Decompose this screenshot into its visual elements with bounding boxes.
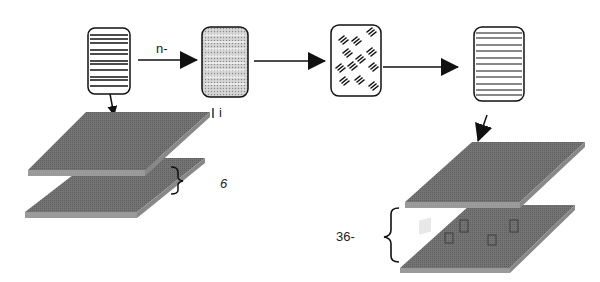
- block-2-dotted: [202, 27, 248, 97]
- block-3-diagonal-dashes: [331, 25, 381, 96]
- left-gap-label: 6: [220, 176, 227, 191]
- arrow-block4-down: [478, 115, 487, 141]
- left-plate-stack: [25, 112, 210, 218]
- arrow-block1-down: [110, 94, 114, 115]
- right-gap-brace: [384, 208, 399, 262]
- right-gap-label: 36-: [336, 229, 355, 244]
- diagram-canvas: [0, 0, 600, 282]
- right-plate-stack: [400, 142, 585, 273]
- left-top-label: i: [219, 105, 222, 120]
- arrow-label: n-: [156, 41, 168, 56]
- block-1-stripes: [88, 28, 130, 94]
- block-4-stripes: [474, 27, 524, 101]
